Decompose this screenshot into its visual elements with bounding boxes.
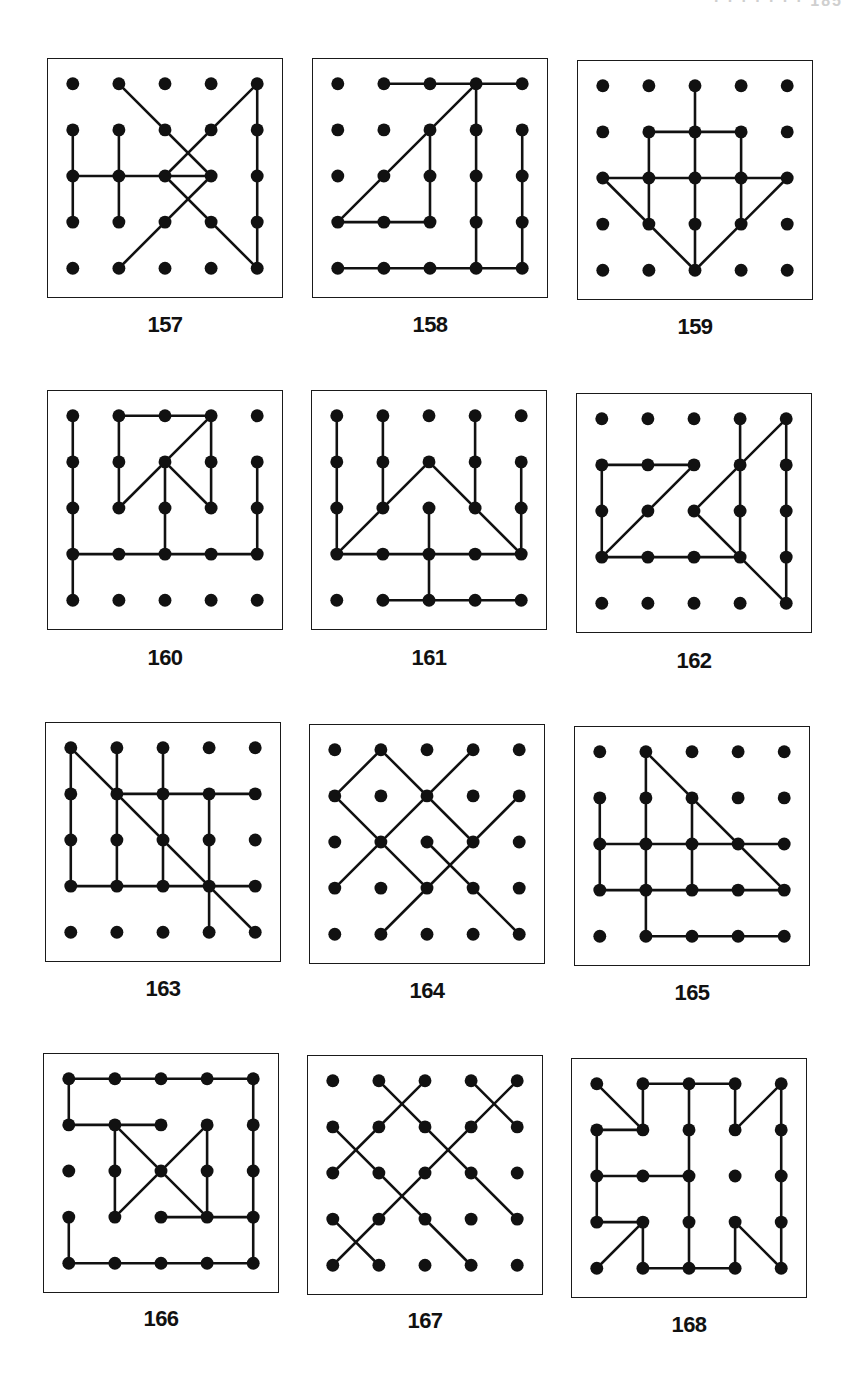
peg-dot (511, 1213, 524, 1226)
peg-dot (683, 1077, 696, 1090)
peg-dot (421, 789, 434, 802)
peg-dot (465, 1213, 478, 1226)
peg-dot (642, 79, 655, 92)
geoboard-drawing (577, 394, 811, 632)
peg-dot (732, 884, 745, 897)
peg-dot (683, 1123, 696, 1136)
peg-dot (778, 884, 791, 897)
peg-dot (470, 216, 483, 229)
peg-dot (780, 458, 793, 471)
peg-dot (419, 1120, 432, 1133)
peg-dot (372, 1259, 385, 1272)
peg-dot (469, 455, 482, 468)
peg-dot (251, 548, 264, 561)
peg-dot (205, 77, 218, 90)
peg-dot (595, 597, 608, 610)
peg-dot (595, 412, 608, 425)
geoboard-drawing (48, 59, 282, 297)
peg-dot (686, 745, 699, 758)
peg-dot (201, 1072, 214, 1085)
peg-dot (424, 77, 437, 90)
geoboard-panel (43, 1053, 279, 1293)
peg-dot (66, 262, 79, 275)
peg-dot (159, 455, 172, 468)
peg-dot (778, 745, 791, 758)
peg-dot (249, 834, 262, 847)
peg-dot (377, 170, 390, 183)
geoboard-drawing (578, 61, 812, 299)
peg-dot (515, 594, 528, 607)
peg-dot (159, 262, 172, 275)
peg-dot (330, 594, 343, 607)
peg-dot (636, 1077, 649, 1090)
peg-dot (64, 926, 77, 939)
peg-dot (778, 791, 791, 804)
peg-dot (326, 1120, 339, 1133)
peg-dot (729, 1077, 742, 1090)
peg-dot (515, 548, 528, 561)
peg-dot (331, 216, 344, 229)
puzzle-number: 167 (307, 1308, 543, 1334)
peg-dot (683, 1216, 696, 1229)
peg-dot (511, 1259, 524, 1272)
peg-dot (734, 505, 747, 518)
peg-dot (636, 1170, 649, 1183)
peg-dot (734, 458, 747, 471)
peg-dot (780, 412, 793, 425)
peg-dot (469, 409, 482, 422)
peg-dot (515, 455, 528, 468)
peg-dot (159, 123, 172, 136)
peg-dot (64, 834, 77, 847)
geoboard-panel (574, 726, 810, 966)
peg-dot (108, 1118, 121, 1131)
peg-dot (596, 218, 609, 231)
peg-dot (249, 880, 262, 893)
peg-dot (372, 1120, 385, 1133)
peg-dot (593, 930, 606, 943)
peg-dot (639, 838, 652, 851)
peg-dot (729, 1123, 742, 1136)
peg-dot (781, 125, 794, 138)
peg-dot (249, 926, 262, 939)
peg-dot (159, 409, 172, 422)
peg-dot (734, 412, 747, 425)
peg-dot (683, 1262, 696, 1275)
peg-dot (735, 125, 748, 138)
peg-dot (686, 791, 699, 804)
peg-dot (64, 880, 77, 893)
peg-dot (513, 882, 526, 895)
peg-dot (424, 216, 437, 229)
geoboard-drawing (313, 59, 547, 297)
peg-dot (735, 79, 748, 92)
peg-dot (330, 502, 343, 515)
peg-dot (377, 77, 390, 90)
peg-dot (642, 172, 655, 185)
band-segment (735, 1222, 781, 1268)
peg-dot (112, 262, 125, 275)
peg-dot (641, 597, 654, 610)
peg-dot (467, 789, 480, 802)
peg-dot (511, 1074, 524, 1087)
puzzle-number: 161 (311, 645, 547, 671)
geoboard-panel (45, 722, 281, 962)
peg-dot (513, 836, 526, 849)
peg-dot (735, 218, 748, 231)
peg-dot (326, 1259, 339, 1272)
peg-dot (734, 551, 747, 564)
geoboard-drawing (44, 1054, 278, 1292)
peg-dot (729, 1170, 742, 1183)
peg-dot (469, 548, 482, 561)
peg-dot (247, 1165, 260, 1178)
peg-dot (372, 1074, 385, 1087)
puzzle-number: 160 (47, 645, 283, 671)
geoboard-panel (311, 390, 547, 630)
peg-dot (372, 1213, 385, 1226)
peg-dot (62, 1257, 75, 1270)
peg-dot (247, 1072, 260, 1085)
peg-dot (467, 928, 480, 941)
peg-dot (66, 548, 79, 561)
peg-dot (781, 264, 794, 277)
peg-dot (328, 789, 341, 802)
peg-dot (516, 77, 529, 90)
puzzle-number: 157 (47, 312, 283, 338)
